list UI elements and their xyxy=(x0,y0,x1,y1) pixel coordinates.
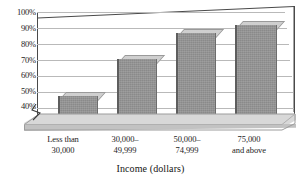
category-line-2: 30,000 xyxy=(30,145,96,156)
category-line-1: 75,000 xyxy=(238,134,261,144)
bar-front-face xyxy=(235,25,277,118)
category-label-30000-49999: 30,000– 49,999 xyxy=(92,134,158,156)
y-tick-label-90: 90% xyxy=(2,24,36,33)
category-label-50000-74999: 50,000– 74,999 xyxy=(154,134,220,156)
bar-less-than-30000[interactable] xyxy=(58,6,98,118)
category-line-1: 50,000– xyxy=(174,134,201,144)
category-line-2: 74,999 xyxy=(154,145,220,156)
category-line-1: 30,000– xyxy=(112,134,139,144)
axis-break-icon xyxy=(29,104,45,122)
y-tick-label-80: 80% xyxy=(2,40,36,49)
plot-right-border xyxy=(294,6,295,118)
y-tick-label-70: 70% xyxy=(2,56,36,65)
x-axis-title: Income (dollars) xyxy=(0,163,301,174)
bar-front-face xyxy=(117,59,157,118)
bar-chart: 100% 90% 80% 70% 60% 50% 40% xyxy=(0,0,301,187)
category-line-2: 49,999 xyxy=(92,145,158,156)
y-tick-label-50: 50% xyxy=(2,87,36,96)
bar-front-face xyxy=(176,33,216,118)
plot-area xyxy=(37,6,295,118)
floor-front-face xyxy=(24,124,296,131)
bar-50000-74999[interactable] xyxy=(176,6,216,118)
bar-75000-and-above[interactable] xyxy=(235,6,277,118)
y-axis-tick-labels: 100% 90% 80% 70% 60% 50% 40% xyxy=(0,0,36,120)
category-line-2: and above xyxy=(214,145,284,156)
x-axis-category-labels: Less than 30,000 30,000– 49,999 50,000– … xyxy=(30,134,295,162)
category-label-less-than-30000: Less than 30,000 xyxy=(30,134,96,156)
y-tick-label-60: 60% xyxy=(2,71,36,80)
y-tick-label-100: 100% xyxy=(2,8,36,17)
category-line-1: Less than xyxy=(47,134,78,144)
bar-30000-49999[interactable] xyxy=(117,6,157,118)
category-label-75000-and-above: 75,000 and above xyxy=(214,134,284,156)
